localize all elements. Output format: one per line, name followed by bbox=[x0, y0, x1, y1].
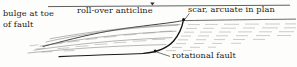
slump-top-surface bbox=[43, 20, 183, 46]
label-roll-over-anticline: roll-over anticline bbox=[77, 6, 153, 16]
label-rotational-fault: rotational fault bbox=[172, 51, 236, 61]
rotational-fault-leader-line bbox=[157, 52, 170, 56]
geological-cross-section-figure: bulge at toe of fault roll-over anticlin… bbox=[0, 0, 297, 67]
slump-top-surface-group bbox=[43, 20, 183, 46]
rotational-fault-point-dot bbox=[154, 50, 157, 53]
label-bulge-at-toe: bulge at toe of fault bbox=[3, 8, 54, 29]
label-scar-arcuate-in-plan: scar, arcuate in plan bbox=[188, 5, 275, 15]
label-bulge-line1: bulge at toe bbox=[3, 8, 54, 19]
label-bulge-line2: of fault bbox=[3, 19, 54, 30]
basal-slip-surface bbox=[59, 54, 144, 57]
ground-surface-right-group bbox=[184, 19, 296, 21]
scar-point-dot bbox=[182, 18, 185, 21]
basal-slip-surface-group bbox=[59, 54, 144, 57]
ground-surface-right bbox=[184, 19, 296, 21]
bulge-bedding-dashes bbox=[30, 31, 172, 52]
right-block-bedding-dashes bbox=[166, 24, 296, 51]
